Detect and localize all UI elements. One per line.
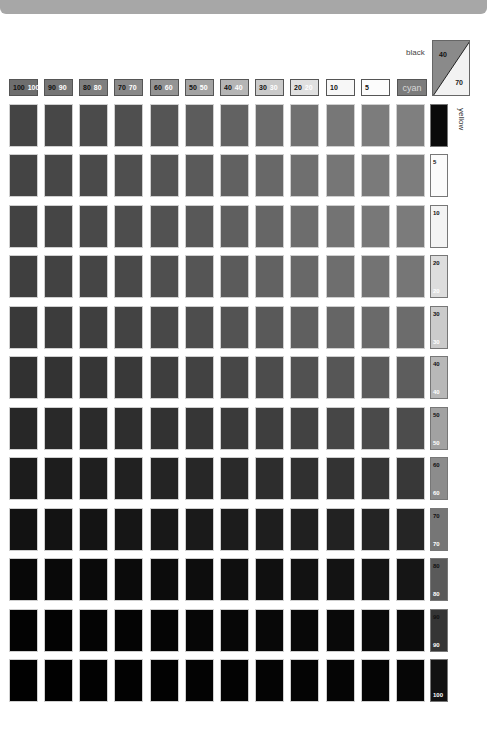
swatch-cell [185, 508, 214, 551]
swatch-cell [185, 255, 214, 298]
swatch-cell [185, 104, 214, 147]
swatch-cell [9, 558, 38, 601]
swatch-cell [79, 306, 108, 349]
swatch-cell [44, 356, 73, 399]
swatch-cell [255, 255, 284, 298]
swatch-cell [326, 154, 355, 197]
swatch-cell [185, 558, 214, 601]
header-swatch: 8080 [79, 79, 108, 96]
swatch-cell [9, 104, 38, 147]
swatch-cell [255, 558, 284, 601]
swatch-cell [326, 104, 355, 147]
swatch-cell [150, 508, 179, 551]
swatch-cell [79, 659, 108, 702]
swatch-cell [326, 659, 355, 702]
header-swatch: 4040 [220, 79, 249, 96]
yellow-swatch-value: 70 [433, 513, 440, 519]
yellow-swatch-value: 30 [433, 311, 440, 317]
swatch-cell [290, 154, 319, 197]
header-swatch: 10 [326, 79, 355, 96]
swatch-cell [150, 659, 179, 702]
yellow-swatch-value-light: 60 [433, 490, 440, 496]
swatch-cell [396, 558, 425, 601]
swatch-cell [361, 306, 390, 349]
yellow-swatch-value: 40 [433, 361, 440, 367]
yellow-swatch-value-light: 80 [433, 591, 440, 597]
swatch-cell [361, 356, 390, 399]
yellow-swatch-value: 10 [433, 210, 440, 216]
yellow-swatch-value-light: 20 [433, 288, 440, 294]
swatch-cell [290, 205, 319, 248]
swatch-cell [290, 407, 319, 450]
swatch-cell [114, 508, 143, 551]
swatch-cell [44, 609, 73, 652]
yellow-swatch-value: 20 [433, 260, 440, 266]
swatch-cell [79, 205, 108, 248]
swatch-cell [361, 609, 390, 652]
header-swatch-value: 70 [118, 84, 126, 91]
header-swatch-value: 80 [83, 84, 91, 91]
yellow-swatch-value-light: 100 [433, 692, 443, 698]
swatch-cell [361, 558, 390, 601]
swatch-cell [9, 255, 38, 298]
swatch-cell [326, 255, 355, 298]
yellow-swatch-value-light: 70 [433, 541, 440, 547]
yellow-swatch: 6060 [430, 457, 448, 500]
swatch-cell [361, 154, 390, 197]
header-swatch-value-light: 60 [165, 84, 173, 91]
swatch-cell [220, 255, 249, 298]
swatch-cell [114, 205, 143, 248]
swatch-cell [361, 457, 390, 500]
swatch-cell [396, 306, 425, 349]
swatch-cell [114, 306, 143, 349]
yellow-swatch: 8080 [430, 558, 448, 601]
yellow-swatch: 4040 [430, 356, 448, 399]
yellow-swatch-value: 60 [433, 462, 440, 468]
swatch-cell [79, 457, 108, 500]
swatch-cell [396, 508, 425, 551]
swatch-cell [220, 205, 249, 248]
swatch-cell [79, 609, 108, 652]
swatch-cell [326, 508, 355, 551]
swatch-cell [9, 306, 38, 349]
swatch-cell [396, 154, 425, 197]
swatch-cell [9, 659, 38, 702]
yellow-swatch-value: 50 [433, 412, 440, 418]
swatch-cell [220, 558, 249, 601]
header-swatch-value: 10 [330, 84, 338, 91]
swatch-cell [396, 407, 425, 450]
swatch-cell [9, 154, 38, 197]
header-swatch: 6060 [150, 79, 179, 96]
header-swatch: 7070 [114, 79, 143, 96]
yellow-swatch-value-light: 40 [433, 389, 440, 395]
yellow-swatch [430, 104, 448, 147]
swatch-cell [326, 407, 355, 450]
header-swatch-value-light: 30 [270, 84, 278, 91]
header-swatch: 5 [361, 79, 390, 96]
header-swatch-value: 30 [259, 84, 267, 91]
swatch-cell [79, 407, 108, 450]
swatch-cell [44, 457, 73, 500]
swatch-cell [396, 356, 425, 399]
swatch-cell [9, 407, 38, 450]
swatch-cell [79, 255, 108, 298]
header-swatch-value: 50 [189, 84, 197, 91]
swatch-cell [290, 356, 319, 399]
swatch-cell [396, 104, 425, 147]
swatch-cell [79, 154, 108, 197]
swatch-cell [44, 255, 73, 298]
swatch-cell [220, 104, 249, 147]
yellow-swatch: 100 [430, 659, 448, 702]
swatch-cell [9, 205, 38, 248]
header-swatch-value: 40 [224, 84, 232, 91]
swatch-cell [150, 205, 179, 248]
yellow-swatch: 3030 [430, 306, 448, 349]
header-swatch-value: 100 [13, 84, 25, 91]
swatch-cell [220, 306, 249, 349]
header-swatch-value-light: 80 [94, 84, 102, 91]
swatch-cell [326, 558, 355, 601]
swatch-cell [185, 609, 214, 652]
swatch-cell [396, 205, 425, 248]
header-swatch-value-light: 70 [129, 84, 137, 91]
swatch-cell [79, 508, 108, 551]
